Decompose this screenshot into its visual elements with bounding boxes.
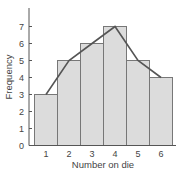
y-ticks: 01234567 <box>19 22 32 151</box>
x-tick-label: 2 <box>66 149 71 159</box>
x-tick-label: 1 <box>43 149 48 159</box>
bar-3 <box>81 44 104 146</box>
y-axis-label: Frequency <box>3 54 14 99</box>
y-tick-label: 0 <box>19 141 24 151</box>
bar-1 <box>35 95 58 146</box>
y-tick-label: 4 <box>19 73 24 83</box>
bar-4 <box>104 27 127 146</box>
y-tick-label: 3 <box>19 90 24 100</box>
y-tick-label: 7 <box>19 22 24 32</box>
bar-6 <box>150 78 173 146</box>
y-tick-label: 5 <box>19 56 24 66</box>
x-tick-label: 6 <box>158 149 163 159</box>
x-tick-label: 4 <box>112 149 117 159</box>
y-tick-label: 1 <box>19 124 24 134</box>
histogram-chart: 01234567 123456 Number on die Frequency <box>0 0 180 173</box>
x-tick-label: 3 <box>89 149 94 159</box>
bars <box>35 27 173 146</box>
x-axis-label: Number on die <box>72 159 134 170</box>
bar-5 <box>127 61 150 146</box>
x-tick-label: 5 <box>135 149 140 159</box>
x-ticks: 123456 <box>43 149 163 159</box>
y-tick-label: 2 <box>19 107 24 117</box>
y-tick-label: 6 <box>19 39 24 49</box>
